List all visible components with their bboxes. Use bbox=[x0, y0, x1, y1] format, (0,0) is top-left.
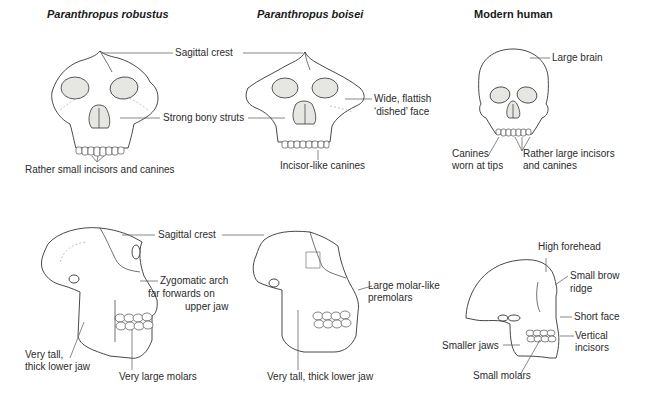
label-robustus-zygomatic-2: far forwards on bbox=[148, 288, 215, 300]
label-robustus-tall-jaw-1: Very tall, bbox=[25, 349, 63, 361]
label-human-large-brain: Large brain bbox=[552, 52, 603, 64]
label-boisei-tall-jaw: Very tall, thick lower jaw bbox=[267, 371, 373, 383]
label-boisei-incisor-like-canines: Incisor-like canines bbox=[280, 160, 365, 172]
label-robustus-zygomatic-1: Zygomatic arch bbox=[160, 275, 228, 287]
robustus-side-skull bbox=[41, 228, 157, 359]
label-sagittal-crest-side: Sagittal crest bbox=[158, 229, 216, 241]
boisei-front-skull bbox=[246, 52, 364, 148]
label-human-smaller-jaws: Smaller jaws bbox=[442, 340, 499, 352]
robustus-front-skull bbox=[52, 51, 158, 156]
label-boisei-molar-like-premolars-2: premolars bbox=[368, 292, 412, 304]
human-front-skull bbox=[479, 49, 549, 136]
label-strong-bony-struts: Strong bony struts bbox=[163, 112, 244, 124]
label-human-small-brow-1: Small brow bbox=[570, 270, 619, 282]
label-boisei-wide-face-1: Wide, flattish bbox=[374, 93, 431, 105]
label-human-vertical-incisors-2: incisors bbox=[575, 342, 609, 354]
label-human-short-face: Short face bbox=[574, 311, 620, 323]
label-boisei-wide-face-2: ‘dished’ face bbox=[374, 106, 429, 118]
label-human-canines-worn-1: Canines bbox=[452, 148, 489, 160]
label-robustus-large-molars: Very large molars bbox=[119, 371, 197, 383]
label-human-canines-worn-2: worn at tips bbox=[452, 160, 503, 172]
label-human-large-incisors-2: and canines bbox=[523, 160, 577, 172]
label-human-small-brow-2: ridge bbox=[570, 283, 592, 295]
label-human-small-molars: Small molars bbox=[473, 370, 531, 382]
label-human-vertical-incisors-1: Vertical bbox=[575, 330, 608, 342]
label-sagittal-crest-front: Sagittal crest bbox=[175, 47, 233, 59]
boisei-side-skull bbox=[253, 231, 358, 352]
label-human-high-forehead: High forehead bbox=[538, 241, 601, 253]
label-robustus-small-incisors: Rather small incisors and canines bbox=[25, 164, 175, 176]
label-boisei-molar-like-premolars-1: Large molar-like bbox=[368, 280, 440, 292]
label-robustus-zygomatic-3: upper jaw bbox=[185, 301, 228, 313]
label-human-large-incisors-1: Rather large incisors bbox=[523, 148, 615, 160]
label-robustus-tall-jaw-2: thick lower jaw bbox=[25, 361, 90, 373]
